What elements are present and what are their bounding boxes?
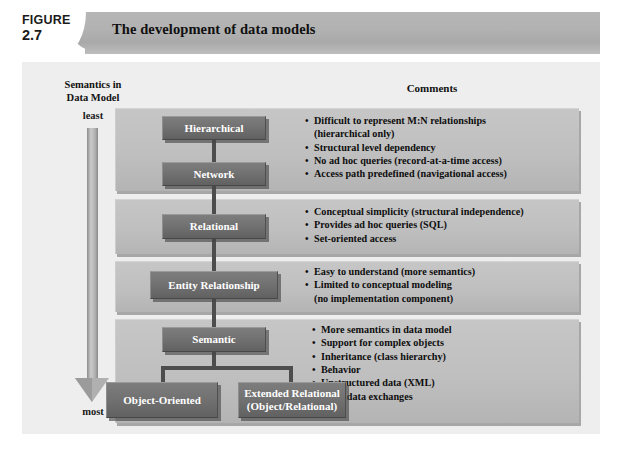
left-column-heading-line2: Data Model xyxy=(67,92,120,103)
comment-item: Provides ad hoc queries (SQL) xyxy=(305,218,524,231)
figure-label: FIGURE 2.7 xyxy=(22,14,84,43)
comment-item: No ad hoc queries (record-at-a-time acce… xyxy=(305,154,507,167)
comment-item: Behavior xyxy=(312,363,452,376)
entity-box-extended-relational-line1: Extended Relational xyxy=(244,387,340,399)
figure-panel: Semantics in Data Model Comments least m… xyxy=(22,62,600,434)
entity-box-semantic[interactable]: Semantic xyxy=(162,327,266,352)
entity-box-extended-relational-label: Extended Relational (Object/Relational) xyxy=(244,387,340,413)
comment-item: Easy to understand (more semantics) xyxy=(305,265,475,278)
figure-header-band: FIGURE 2.7 The development of data model… xyxy=(22,12,600,54)
comment-item: More semantics in data model xyxy=(312,323,452,336)
entity-box-entity-relationship-label: Entity Relationship xyxy=(168,279,259,292)
figure-root: FIGURE 2.7 The development of data model… xyxy=(0,0,618,451)
comment-item: (no implementation component) xyxy=(305,292,475,305)
entity-box-extended-relational-line2: (Object/Relational) xyxy=(247,400,337,412)
connector-semantic-crossbar xyxy=(161,366,293,370)
left-column-heading: Semantics in Data Model xyxy=(48,78,138,104)
comment-item: Set-oriented access xyxy=(305,232,524,245)
entity-box-object-oriented-label: Object-Oriented xyxy=(123,394,201,407)
entity-box-relational-label: Relational xyxy=(190,220,238,233)
entity-box-hierarchical-label: Hierarchical xyxy=(184,122,243,135)
entity-box-object-oriented[interactable]: Object-Oriented xyxy=(106,382,218,418)
entity-box-extended-relational[interactable]: Extended Relational (Object/Relational) xyxy=(238,382,346,418)
comment-item: Conceptual simplicity (structural indepe… xyxy=(305,205,524,218)
entity-box-relational[interactable]: Relational xyxy=(162,214,266,239)
comment-item: (hierarchical only) xyxy=(305,127,507,140)
comments-entity-relationship: Easy to understand (more semantics) Limi… xyxy=(305,265,475,305)
comments-relational: Conceptual simplicity (structural indepe… xyxy=(305,205,524,245)
left-column-heading-line1: Semantics in xyxy=(65,79,122,90)
entity-box-hierarchical[interactable]: Hierarchical xyxy=(162,116,266,140)
figure-label-word: FIGURE xyxy=(22,14,84,28)
comments-column-heading: Comments xyxy=(352,82,512,94)
figure-number: 2.7 xyxy=(22,28,84,44)
comment-item: Limited to conceptual modeling xyxy=(305,278,475,291)
entity-box-network-label: Network xyxy=(194,168,235,181)
comment-item: Difficult to represent M:N relationships xyxy=(305,114,507,127)
entity-box-entity-relationship[interactable]: Entity Relationship xyxy=(150,271,278,299)
comments-hierarchical-network: Difficult to represent M:N relationships… xyxy=(305,114,507,181)
comment-item: Structural level dependency xyxy=(305,141,507,154)
comment-item: Inheritance (class hierarchy) xyxy=(312,350,452,363)
entity-box-network[interactable]: Network xyxy=(162,162,266,186)
arrow-head-shadow xyxy=(75,378,92,402)
comment-item: Access path predefined (navigational acc… xyxy=(305,167,507,180)
arrow-shaft xyxy=(87,128,98,380)
entity-box-semantic-label: Semantic xyxy=(192,333,235,346)
comment-item: Support for complex objects xyxy=(312,336,452,349)
figure-title: The development of data models xyxy=(112,21,316,38)
